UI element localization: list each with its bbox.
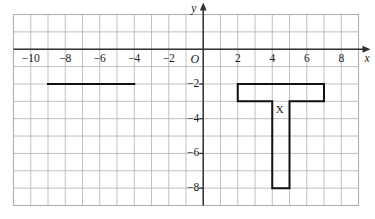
y-tick-label: −2 [187,78,199,90]
x-tick-label: −8 [59,53,71,65]
x-tick-label: −2 [163,53,175,65]
x-tick-label: 4 [269,53,275,65]
coordinate-grid-figure: x y O X −10−8−6−4−22468−2−4−6−8 [0,0,375,219]
x-tick-label: −10 [22,53,40,65]
y-tick-label: −8 [187,182,199,194]
axis-lines [14,3,371,206]
origin-label: O [191,53,200,65]
x-tick-label: 8 [338,53,344,65]
x-axis-label: x [365,53,370,65]
x-tick-label: 2 [235,53,241,65]
y-tick-label: −6 [187,148,199,160]
y-tick-label: −4 [187,113,199,125]
y-axis-label: y [191,3,196,15]
x-tick-label: 6 [304,53,310,65]
grid-lines [14,15,359,206]
x-tick-label: −4 [128,53,140,65]
t-shape-label: X [276,104,284,115]
x-tick-label: −6 [94,53,106,65]
